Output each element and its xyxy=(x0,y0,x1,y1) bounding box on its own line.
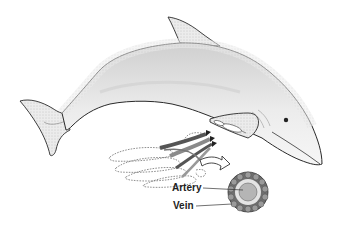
dolphin-diagram xyxy=(0,0,338,225)
vein-leader-line xyxy=(196,204,232,206)
pectoral-flipper xyxy=(210,113,259,138)
eye-icon xyxy=(284,118,288,122)
vessel-cross-section xyxy=(228,172,268,212)
vein-label: Vein xyxy=(173,201,194,211)
artery-label: Artery xyxy=(172,183,201,193)
rete-network xyxy=(109,130,217,187)
curved-arrow-icon xyxy=(200,156,230,170)
